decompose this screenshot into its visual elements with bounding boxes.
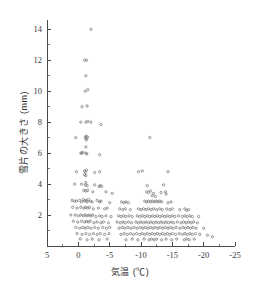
data-point bbox=[156, 215, 158, 217]
x-tick-label: 0 bbox=[76, 250, 80, 260]
data-point bbox=[101, 215, 103, 217]
data-point bbox=[189, 215, 191, 217]
data-point bbox=[85, 139, 87, 141]
data-point bbox=[161, 239, 163, 241]
data-point bbox=[102, 226, 104, 228]
data-point bbox=[161, 201, 163, 203]
data-point bbox=[146, 184, 148, 186]
data-point bbox=[161, 215, 163, 217]
data-point bbox=[108, 232, 110, 234]
data-point bbox=[147, 227, 149, 229]
data-point bbox=[166, 208, 168, 210]
data-point bbox=[164, 233, 166, 235]
data-point bbox=[154, 233, 156, 235]
data-point bbox=[80, 183, 82, 185]
data-point bbox=[93, 226, 95, 228]
data-point bbox=[151, 215, 153, 217]
data-point bbox=[124, 227, 126, 229]
data-point bbox=[162, 222, 164, 224]
data-point bbox=[105, 215, 107, 217]
data-point bbox=[90, 121, 92, 123]
data-point bbox=[149, 226, 151, 228]
data-point bbox=[160, 191, 162, 193]
data-point bbox=[105, 227, 107, 229]
data-point bbox=[157, 227, 159, 229]
data-point bbox=[149, 136, 151, 138]
data-point bbox=[165, 238, 167, 240]
data-point bbox=[81, 233, 83, 235]
data-point bbox=[120, 215, 122, 217]
data-point bbox=[100, 222, 102, 224]
data-point bbox=[130, 222, 132, 224]
data-point bbox=[142, 227, 144, 229]
data-point bbox=[84, 227, 86, 229]
data-point bbox=[169, 208, 171, 210]
data-point bbox=[77, 221, 79, 223]
x-tick-label: -5 bbox=[106, 250, 113, 260]
data-point bbox=[88, 233, 90, 235]
data-point bbox=[152, 192, 154, 194]
data-point bbox=[170, 221, 172, 223]
data-point bbox=[85, 59, 87, 61]
data-point bbox=[154, 215, 156, 217]
data-point bbox=[184, 215, 186, 217]
data-point bbox=[187, 226, 189, 228]
data-point bbox=[169, 226, 171, 228]
data-point bbox=[91, 238, 93, 240]
data-point bbox=[141, 232, 143, 234]
data-point bbox=[192, 221, 194, 223]
data-point bbox=[162, 227, 164, 229]
data-point bbox=[98, 154, 100, 156]
data-point bbox=[126, 233, 128, 235]
data-point bbox=[73, 183, 75, 185]
data-point bbox=[117, 215, 119, 217]
data-point bbox=[164, 191, 166, 193]
data-point bbox=[85, 146, 87, 148]
data-point bbox=[74, 214, 76, 216]
data-point bbox=[119, 208, 121, 210]
data-point bbox=[75, 226, 77, 228]
data-point bbox=[153, 239, 155, 241]
data-point bbox=[187, 221, 189, 223]
data-point bbox=[167, 227, 169, 229]
data-point bbox=[109, 202, 111, 204]
data-point bbox=[104, 233, 106, 235]
data-point bbox=[135, 221, 137, 223]
data-point bbox=[92, 208, 94, 210]
data-point bbox=[144, 226, 146, 228]
data-point bbox=[80, 121, 82, 123]
data-point bbox=[87, 226, 89, 228]
data-point bbox=[97, 207, 99, 209]
data-point bbox=[166, 215, 168, 217]
data-point bbox=[167, 202, 169, 204]
data-point bbox=[141, 215, 143, 217]
data-point bbox=[154, 195, 156, 197]
data-point bbox=[127, 221, 129, 223]
data-point bbox=[159, 233, 161, 235]
data-point bbox=[179, 208, 181, 210]
data-point bbox=[106, 207, 108, 209]
data-point bbox=[160, 221, 162, 223]
data-point bbox=[165, 221, 167, 223]
data-point bbox=[125, 215, 127, 217]
data-point bbox=[84, 171, 86, 173]
data-point bbox=[80, 214, 82, 216]
y-tick-label: 2 bbox=[38, 210, 42, 220]
data-point bbox=[151, 238, 153, 240]
data-point bbox=[122, 221, 124, 223]
data-point bbox=[185, 222, 187, 224]
data-point bbox=[90, 227, 92, 229]
data-point bbox=[157, 222, 159, 224]
data-point bbox=[118, 227, 120, 229]
data-point bbox=[182, 221, 184, 223]
x-axis-title: 気温 (℃) bbox=[0, 265, 260, 278]
data-point bbox=[164, 226, 166, 228]
data-point bbox=[187, 208, 189, 210]
data-point bbox=[151, 195, 153, 197]
data-point bbox=[182, 226, 184, 228]
data-point bbox=[175, 226, 177, 228]
data-point bbox=[105, 191, 107, 193]
data-point bbox=[159, 226, 161, 228]
data-point bbox=[159, 215, 161, 217]
data-point bbox=[171, 208, 173, 210]
